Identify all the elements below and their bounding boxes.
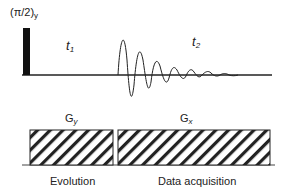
pulse-label: (π/2)y — [10, 7, 38, 20]
gx-label: Gx — [180, 113, 193, 126]
t2-label: t2 — [192, 35, 200, 50]
t1-label: t1 — [66, 39, 74, 54]
pulse-label-main: (π/2) — [10, 6, 34, 18]
gy-sub: y — [74, 117, 78, 126]
rf-pulse-bar — [23, 28, 30, 75]
gx-main: G — [180, 112, 189, 124]
fid-signal — [118, 40, 238, 96]
gy-label: Gy — [65, 113, 78, 126]
t2-sub: 2 — [196, 41, 200, 50]
pulse-sequence-diagram — [0, 0, 283, 193]
gy-gradient-block — [30, 130, 113, 165]
gx-sub: x — [189, 117, 193, 126]
t1-sub: 1 — [70, 45, 74, 54]
gx-gradient-block — [118, 130, 270, 165]
acquisition-label: Data acquisition — [158, 176, 236, 187]
pulse-label-sub: y — [34, 11, 38, 20]
evolution-label: Evolution — [50, 176, 95, 187]
gy-main: G — [65, 112, 74, 124]
